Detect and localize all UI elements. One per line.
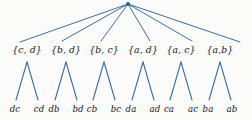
leaf-edge-9 <box>181 62 192 100</box>
leaf-edge-1 <box>27 62 38 100</box>
leaf-edge-10 <box>209 62 220 100</box>
leaf-node-7: ad <box>150 105 161 114</box>
set-node-1: {b, d} <box>51 45 81 54</box>
leaf-node-1: cd <box>34 105 45 114</box>
leaf-edge-7 <box>143 62 154 100</box>
leaf-edge-4 <box>93 62 104 100</box>
leaf-edge-3 <box>66 62 77 100</box>
leaf-edge-0 <box>16 62 27 100</box>
leaf-node-8: ca <box>164 105 174 114</box>
set-node-5: {a,b} <box>207 45 234 54</box>
set-node-0: {c, d} <box>12 45 42 54</box>
leaf-edge-6 <box>132 62 143 100</box>
set-node-2: {b, c} <box>89 45 119 54</box>
root-edge-2 <box>101 4 128 41</box>
leaf-node-9: ac <box>188 105 198 114</box>
leaf-node-6: da <box>126 105 137 114</box>
leaf-edge-5 <box>104 62 115 100</box>
leaf-edge-2 <box>55 62 66 100</box>
leaf-node-3: bd <box>72 105 83 114</box>
leaf-node-0: dc <box>10 105 21 114</box>
leaf-edge-8 <box>170 62 181 100</box>
root-node-dot <box>126 2 130 6</box>
leaf-node-4: cb <box>87 105 98 114</box>
set-node-3: {a, d} <box>128 45 158 54</box>
root-edge-0 <box>20 4 128 42</box>
set-node-4: {a, c} <box>166 45 195 54</box>
root-edge-1 <box>62 4 128 41</box>
tree-diagram: {c, d}{b, d}{b, c}{a, d}{a, c}{a,b}dccdd… <box>0 0 252 120</box>
edge-layer <box>0 0 252 120</box>
leaf-edge-11 <box>220 62 231 100</box>
leaf-node-11: ab <box>227 105 238 114</box>
leaf-node-2: db <box>48 105 59 114</box>
leaf-node-10: ba <box>203 105 214 114</box>
root-edge-3 <box>128 4 150 41</box>
leaf-node-5: bc <box>111 105 122 114</box>
